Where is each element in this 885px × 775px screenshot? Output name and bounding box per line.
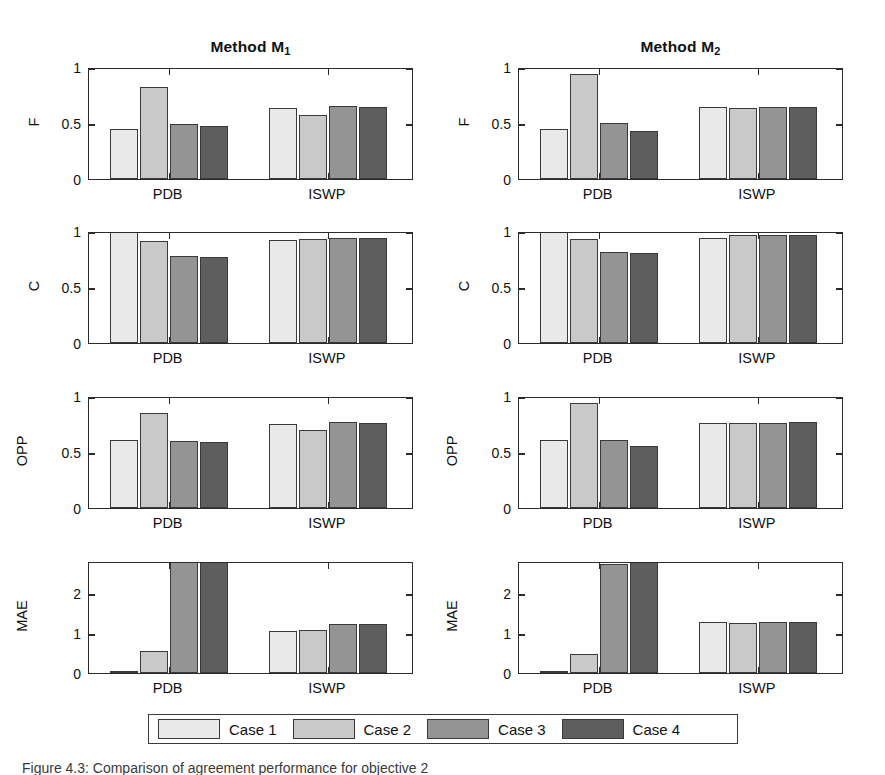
bar	[540, 129, 568, 179]
x-tick-mark	[758, 337, 760, 343]
legend-label: Case 2	[364, 721, 412, 738]
x-tick-label-pdb: PDB	[583, 350, 613, 366]
x-tick-mark	[328, 337, 330, 343]
y-tick-label: 1	[73, 626, 81, 642]
bar	[570, 403, 598, 508]
bar	[329, 238, 357, 343]
x-tick-mark	[328, 233, 330, 239]
x-tick-label-pdb: PDB	[153, 680, 183, 696]
y-tick-label: 2	[73, 586, 81, 602]
x-tick-mark	[758, 398, 760, 404]
bar	[269, 240, 297, 343]
y-tick-label: 1	[503, 60, 511, 76]
y-tick-mark	[519, 397, 525, 399]
bar	[540, 232, 568, 343]
x-tick-mark	[328, 563, 330, 569]
x-tick-mark	[328, 502, 330, 508]
bar	[170, 124, 198, 179]
y-tick-mark	[406, 634, 412, 636]
bar	[359, 624, 387, 673]
plot-area	[518, 562, 843, 674]
subplot-mae-m2: 012MAEPDBISWP	[518, 562, 843, 674]
bar	[600, 252, 628, 343]
x-tick-mark	[758, 502, 760, 508]
x-tick-mark	[169, 233, 171, 239]
x-tick-mark	[169, 502, 171, 508]
legend-entry[interactable]: Case 4	[562, 719, 697, 739]
y-axis-label: C	[456, 266, 472, 306]
x-tick-mark	[169, 173, 171, 179]
y-axis-label: MAE	[444, 596, 460, 636]
y-tick-label: 0.5	[492, 445, 511, 461]
plot-area	[88, 232, 413, 344]
y-axis-label: F	[26, 102, 42, 142]
bar	[729, 108, 757, 179]
bar	[789, 107, 817, 179]
plot-area	[88, 68, 413, 180]
bar	[759, 622, 787, 673]
y-tick-mark	[89, 232, 95, 234]
bar	[170, 256, 198, 343]
y-tick-mark	[406, 288, 412, 290]
legend-label: Case 3	[498, 721, 546, 738]
bar	[269, 108, 297, 179]
legend-swatch	[562, 719, 624, 739]
x-tick-label-iswp: ISWP	[738, 680, 775, 696]
x-tick-mark	[169, 398, 171, 404]
bar	[630, 446, 658, 508]
bar	[630, 131, 658, 179]
bar	[540, 440, 568, 508]
legend-label: Case 4	[633, 721, 681, 738]
y-tick-label: 1	[503, 626, 511, 642]
legend-label: Case 1	[229, 721, 277, 738]
bar	[600, 564, 628, 673]
y-axis-label: C	[26, 266, 42, 306]
legend-entry[interactable]: Case 1	[158, 719, 293, 739]
x-tick-mark	[758, 667, 760, 673]
y-tick-label: 0.5	[492, 280, 511, 296]
bar	[359, 423, 387, 508]
subplot-c-m1: 00.51CPDBISWP	[88, 232, 413, 344]
y-tick-mark	[836, 124, 842, 126]
bar	[299, 430, 327, 508]
bar	[699, 423, 727, 508]
y-tick-mark	[519, 594, 525, 596]
x-tick-mark	[328, 667, 330, 673]
y-tick-label: 0	[73, 666, 81, 682]
bar	[140, 413, 168, 508]
legend-entry[interactable]: Case 2	[293, 719, 428, 739]
bar	[269, 631, 297, 673]
y-tick-mark	[836, 634, 842, 636]
bar	[729, 423, 757, 508]
y-tick-label: 1	[73, 60, 81, 76]
x-tick-label-iswp: ISWP	[738, 350, 775, 366]
bar	[729, 623, 757, 673]
y-tick-mark	[836, 288, 842, 290]
x-tick-label-pdb: PDB	[583, 186, 613, 202]
subplot-f-m1: Method M100.51FPDBISWP	[88, 68, 413, 180]
y-tick-mark	[89, 68, 95, 70]
x-tick-mark	[599, 398, 601, 404]
bar	[170, 562, 198, 673]
x-tick-mark	[599, 69, 601, 75]
legend-swatch	[427, 719, 489, 739]
bar	[110, 440, 138, 508]
y-axis-label: OPP	[444, 431, 460, 471]
y-tick-label: 0.5	[62, 280, 81, 296]
y-tick-label: 0	[503, 172, 511, 188]
y-tick-mark	[836, 594, 842, 596]
y-tick-label: 1	[503, 389, 511, 405]
x-tick-mark	[758, 173, 760, 179]
x-tick-mark	[758, 233, 760, 239]
y-tick-mark	[836, 232, 842, 234]
subplot-title-subscript: 2	[714, 45, 720, 57]
bar	[630, 253, 658, 343]
subplot-c-m2: 00.51CPDBISWP	[518, 232, 843, 344]
bar	[170, 441, 198, 508]
legend-entry[interactable]: Case 3	[427, 719, 562, 739]
y-tick-label: 0	[503, 336, 511, 352]
bar	[570, 654, 598, 673]
x-tick-label-iswp: ISWP	[308, 350, 345, 366]
y-tick-label: 1	[73, 389, 81, 405]
bar	[200, 562, 228, 673]
